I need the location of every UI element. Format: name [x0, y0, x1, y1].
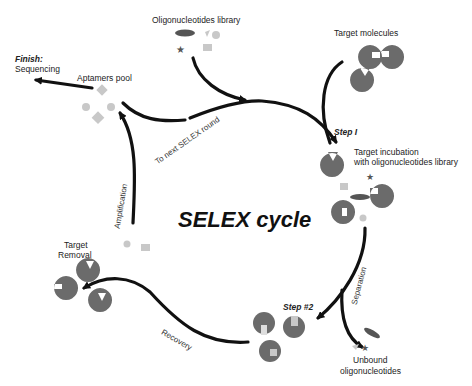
next-round-arrow [123, 103, 185, 121]
target-molecules-glyphs [350, 45, 404, 92]
diagram-title: SELEX cycle [178, 207, 311, 233]
diagram-graphics: ★ ★ [0, 0, 472, 386]
finish-label: Finish: [15, 54, 43, 64]
target-removal-label-1: Target [64, 240, 88, 250]
svg-text:★: ★ [366, 172, 374, 182]
target-incubation-label-1: Target incubation [354, 147, 419, 157]
aptamers-pool-glyphs [82, 84, 115, 124]
target-incubation-label-2: with oligonucleotides library [354, 157, 458, 167]
target-removal-label-2: Removal [58, 250, 92, 260]
unbound-label-2: oligonucleotides [340, 366, 401, 376]
unbound-glyphs: ★ [352, 326, 381, 353]
svg-text:★: ★ [361, 343, 369, 353]
sequencing-label: Sequencing [15, 64, 60, 74]
library-arrow [193, 58, 245, 100]
svg-text:★: ★ [176, 44, 185, 55]
target-removal-glyphs [54, 258, 112, 312]
step1-label: Step I [334, 127, 357, 137]
selex-cycle-diagram: ★ ★ [0, 0, 472, 386]
target-molecules-label: Target molecules [334, 28, 398, 38]
unbound-label-1: Unbound [353, 355, 388, 365]
aptamers-pool-label: Aptamers pool [77, 73, 132, 83]
oligo-library-label: Oligonucleotides library [152, 15, 240, 25]
step2-glyphs [253, 312, 305, 362]
oligo-library-glyphs: ★ [175, 30, 220, 56]
step2-label: Step #2 [283, 302, 313, 312]
released-aptamers-glyphs [124, 241, 151, 252]
